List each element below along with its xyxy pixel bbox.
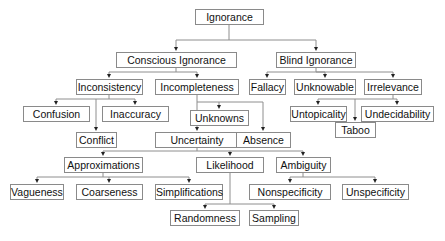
node-vagueness: Vagueness (10, 184, 64, 200)
ignorance-taxonomy-diagram: Ignorance Conscious Ignorance Blind Igno… (0, 0, 445, 241)
node-sampling: Sampling (249, 210, 299, 226)
node-conflict: Conflict (76, 132, 117, 148)
node-irrelevance: Irrelevance (364, 79, 422, 95)
node-undecidability: Undecidability (361, 106, 434, 122)
node-coarseness: Coarseness (76, 184, 143, 200)
node-ambiguity: Ambiguity (276, 157, 331, 173)
node-fallacy: Fallacy (249, 79, 286, 95)
node-likelihood: Likelihood (196, 157, 264, 173)
node-taboo: Taboo (335, 122, 376, 138)
node-unknowns: Unknowns (190, 110, 249, 126)
node-confusion: Confusion (23, 106, 90, 122)
node-incompleteness: Incompleteness (155, 79, 239, 95)
node-untopicality: Untopicality (290, 106, 347, 122)
node-ignorance: Ignorance (195, 9, 264, 25)
node-inaccuracy: Inaccuracy (102, 106, 169, 122)
node-uncertainty: Uncertainty (155, 132, 239, 148)
node-absence: Absence (236, 132, 291, 148)
node-randomness: Randomness (170, 210, 240, 226)
node-blind-ignorance: Blind Ignorance (276, 52, 356, 68)
node-unknowable: Unknowable (294, 79, 356, 95)
node-approximations: Approximations (64, 157, 143, 173)
node-conscious-ignorance: Conscious Ignorance (116, 52, 237, 68)
node-simplifications: Simplifications (155, 184, 223, 200)
node-unspecificity: Unspecificity (342, 184, 409, 200)
node-nonspecificity: Nonspecificity (249, 184, 331, 200)
node-inconsistency: Inconsistency (76, 79, 143, 95)
